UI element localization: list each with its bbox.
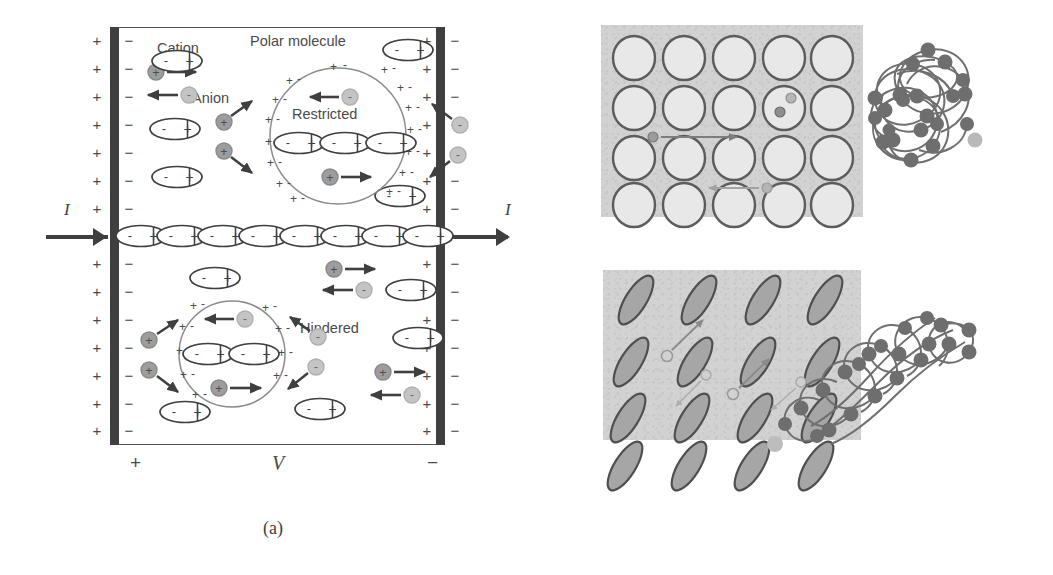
anion-particle: [148, 87, 197, 103]
svg-text:-: -: [408, 80, 412, 94]
center-molecule-chain: [116, 226, 453, 247]
cation-particle: [326, 261, 375, 277]
svg-text:+: +: [192, 388, 199, 402]
svg-text:-: -: [201, 297, 205, 311]
panel-a: + + + + + + + + + + + + + + + − − − − − …: [0, 0, 545, 575]
anion-particle: [288, 359, 324, 389]
svg-text:+: +: [262, 301, 269, 315]
svg-text:-: -: [191, 367, 195, 381]
svg-text:-: -: [287, 176, 291, 190]
cation-particle: [375, 364, 425, 380]
svg-text:+: +: [180, 368, 187, 382]
svg-text:+: +: [397, 81, 404, 95]
svg-text:+: +: [190, 299, 197, 313]
anion-particle: [371, 387, 420, 403]
polar-molecule: [152, 167, 202, 188]
svg-text:-: -: [284, 368, 288, 382]
svg-text:-: -: [203, 387, 207, 401]
svg-text:-: -: [343, 58, 347, 72]
svg-text:-: -: [283, 92, 287, 106]
polar-molecule: [152, 51, 202, 72]
caption-a: (a): [263, 518, 283, 539]
polymer-coils: [545, 0, 1053, 575]
svg-text:+: +: [386, 185, 393, 199]
anion-particle: [432, 104, 468, 133]
svg-text:+: +: [381, 63, 388, 77]
svg-text:+: +: [330, 60, 337, 74]
svg-text:+: +: [290, 192, 297, 206]
elongated-polymer-coil: [784, 317, 973, 444]
svg-text:-: -: [397, 184, 401, 198]
anion-particle: [323, 282, 372, 298]
polar-molecule: [150, 119, 200, 140]
svg-text:-: -: [278, 155, 282, 169]
cation-particle: [141, 362, 178, 392]
polar-molecule: [295, 399, 345, 420]
anion-particle: [290, 317, 326, 345]
svg-text:-: -: [273, 299, 277, 313]
svg-text:+: +: [265, 135, 272, 149]
hindered-domain: +- +- +- +- +- +- +- +- +-: [176, 297, 293, 407]
polar-molecule: [386, 280, 436, 301]
svg-text:-: -: [276, 112, 280, 126]
anion-particle: [430, 147, 466, 177]
svg-text:+: +: [405, 101, 412, 115]
svg-text:-: -: [190, 319, 194, 333]
svg-text:-: -: [297, 72, 301, 86]
cation-particle: [216, 101, 252, 130]
figure-root: + + + + + + + + + + + + + + + − − − − − …: [0, 0, 1053, 575]
panel-b: (b): [545, 0, 1053, 575]
svg-text:+: +: [286, 74, 293, 88]
svg-text:+: +: [179, 320, 186, 334]
svg-text:-: -: [301, 191, 305, 205]
svg-text:-: -: [416, 144, 420, 158]
svg-text:-: -: [410, 165, 414, 179]
svg-text:-: -: [418, 122, 422, 136]
svg-text:+: +: [265, 113, 272, 127]
cation-particle: [141, 320, 178, 348]
svg-text:+: +: [176, 344, 183, 358]
polar-molecule: [393, 328, 443, 349]
panel-a-vectors: - + + -: [0, 0, 545, 575]
svg-text:+: +: [276, 177, 283, 191]
polar-molecule: [190, 268, 240, 289]
polar-molecule: [160, 402, 210, 423]
svg-text:+: +: [272, 93, 279, 107]
svg-text:-: -: [392, 61, 396, 75]
polar-molecule: [383, 40, 433, 61]
svg-text:+: +: [275, 322, 282, 336]
svg-text:+: +: [273, 369, 280, 383]
cation-particle: [216, 143, 252, 173]
svg-text:+: +: [399, 166, 406, 180]
svg-text:-: -: [286, 321, 290, 335]
restricted-domain: +- +- +- +- +- +- +- +- +- +- +- +- +- +…: [265, 58, 422, 206]
svg-text:+: +: [267, 156, 274, 170]
svg-text:-: -: [416, 100, 420, 114]
svg-text:-: -: [289, 345, 293, 359]
